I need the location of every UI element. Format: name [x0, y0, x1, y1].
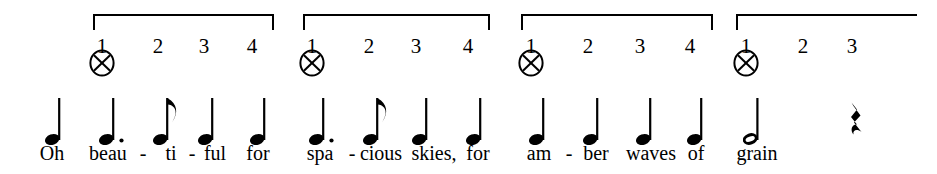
lyric-hyphen: -: [566, 143, 573, 163]
lyric-syllable: cious: [360, 143, 402, 163]
beat-number: 4: [457, 36, 479, 57]
lyric-hyphen: -: [349, 143, 356, 163]
lyric-syllable: ful: [204, 143, 226, 163]
measure-bracket: [303, 14, 490, 30]
beat-number: 2: [147, 36, 169, 57]
beat-number: 3: [193, 36, 215, 57]
beat-number: 2: [792, 36, 814, 57]
lyric-syllable: Oh: [40, 143, 64, 163]
lyric-syllable: am: [527, 143, 551, 163]
lyric-syllable: ber: [583, 143, 609, 163]
lyric-syllable: beau: [89, 143, 127, 163]
measure-bracket: [521, 14, 713, 30]
circled-x-icon: [517, 49, 545, 77]
beat-number: 4: [679, 36, 701, 57]
lyric-hyphen: -: [189, 143, 196, 163]
beat-number: 3: [405, 36, 427, 57]
beat-number: 2: [577, 36, 599, 57]
lyric-syllable: of: [688, 143, 705, 163]
lyric-syllable: for: [246, 143, 269, 163]
measure-bracket: [736, 14, 917, 30]
beat-number: 3: [629, 36, 651, 57]
lyric-syllable: waves: [626, 143, 676, 163]
measure-bracket: [93, 14, 274, 30]
beat-number: 4: [241, 36, 263, 57]
circled-x-icon: [732, 49, 760, 77]
beat-number: 2: [358, 36, 380, 57]
lyric-syllable: grain: [736, 143, 777, 163]
lyric-syllable: for: [466, 143, 489, 163]
quarter-rest-glyph: [848, 96, 868, 152]
lyric-syllable: skies,: [412, 143, 457, 163]
lyric-syllable: ti: [165, 143, 176, 163]
beat-number: 3: [841, 36, 863, 57]
circled-x-icon: [298, 49, 326, 77]
rhythm-notation-sheet: 1234Ohbeautifulfor--1234spaciousskies,fo…: [0, 0, 937, 174]
lyric-syllable: spa: [307, 143, 334, 163]
lyric-hyphen: -: [140, 143, 147, 163]
circled-x-icon: [88, 49, 116, 77]
